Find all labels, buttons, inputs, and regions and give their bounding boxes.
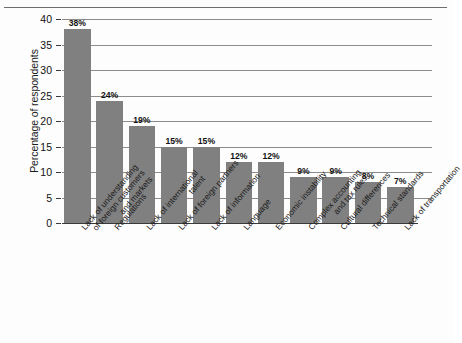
y-tick-mark [56, 147, 61, 148]
bar-value-label: 9% [297, 166, 309, 176]
bar-value-label: 12% [262, 151, 279, 161]
bar-value-label: 15% [166, 136, 183, 146]
y-tick-label: 0 [22, 217, 52, 229]
y-tick-label: 20 [22, 115, 52, 127]
bar: 38% [64, 29, 91, 223]
top-divider-rule [4, 7, 447, 8]
x-axis-labels: Lack of understandingof foreign customer… [62, 226, 442, 341]
y-tick-label: 15 [22, 141, 52, 153]
y-tick-mark [56, 121, 61, 122]
y-tick-label: 10 [22, 166, 52, 178]
y-tick-mark [56, 45, 61, 46]
y-tick-label: 35 [22, 39, 52, 51]
y-tick-mark [56, 96, 61, 97]
y-tick-mark [56, 19, 61, 20]
y-tick-mark [56, 223, 61, 224]
y-tick-mark [56, 172, 61, 173]
bar-value-label: 19% [133, 115, 150, 125]
y-tick-label: 30 [22, 64, 52, 76]
y-tick-label: 25 [22, 90, 52, 102]
y-tick-mark [56, 70, 61, 71]
y-tick-mark [56, 198, 61, 199]
bar-value-label: 15% [198, 136, 215, 146]
bar-value-label: 24% [101, 90, 118, 100]
y-tick-label: 40 [22, 13, 52, 25]
bar-value-label: 38% [69, 18, 86, 28]
bar-value-label: 9% [329, 166, 341, 176]
y-tick-label: 5 [22, 192, 52, 204]
